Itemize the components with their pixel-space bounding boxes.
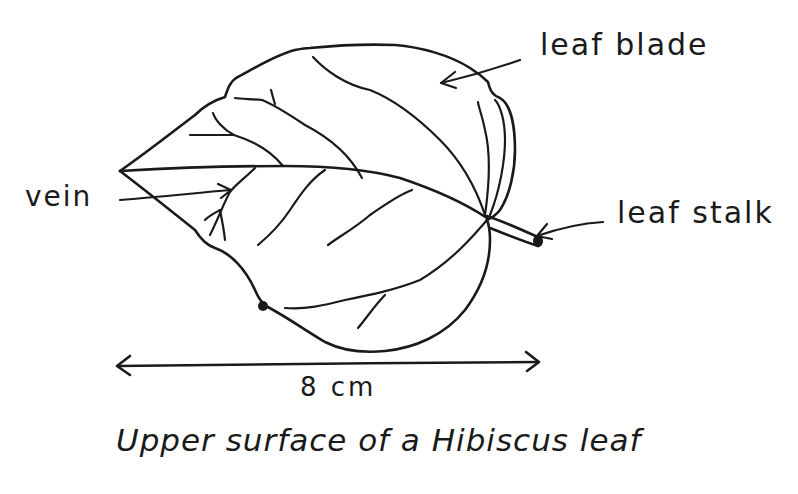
leaf-blade-arrow <box>441 60 520 83</box>
leaf-stalk-drawing <box>487 216 543 247</box>
notch-mark <box>258 301 268 311</box>
diagram-caption: Upper surface of a Hibiscus leaf <box>116 425 641 456</box>
leaf-veins <box>120 57 505 328</box>
leaf-blade-label: leaf blade <box>540 30 709 60</box>
leaf-drawing <box>0 0 798 494</box>
vein-arrow <box>120 190 230 200</box>
scale-bar-label: 8 cm <box>300 374 376 400</box>
vein-label: vein <box>25 183 92 211</box>
leaf-stalk-label: leaf stalk <box>617 198 774 228</box>
